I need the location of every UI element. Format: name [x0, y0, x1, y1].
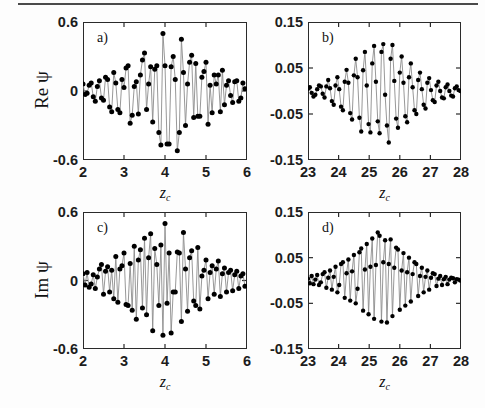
- panel-b-xlabel: zc: [379, 184, 390, 203]
- panel-d-ytick-label: -0.15: [270, 341, 303, 357]
- panel-b-xtick-label: 27: [422, 164, 438, 180]
- panel-a-ytick-label: -0.6: [53, 152, 78, 168]
- panel-b-ytick-label: 0.15: [275, 14, 303, 30]
- panel-c-ylabel-text: Im: [31, 277, 52, 298]
- panel-c-ytick-label: 0.6: [58, 204, 78, 220]
- panel-b-ytick-label: 0.05: [275, 60, 303, 76]
- panel-d-xtick-label: 27: [422, 353, 438, 369]
- panel-a-letter: a): [97, 30, 108, 46]
- panel-c-xlabel: zc: [160, 373, 171, 392]
- panel-a-ylabel-text: Re: [31, 88, 52, 109]
- panel-c-ytick-label: 0: [70, 273, 78, 289]
- plot-panel-a: a) Re ψ zc 0.60-0.623456: [83, 22, 247, 160]
- panel-d-xtick-label: 26: [392, 353, 408, 369]
- panel-d-xtick-label: 25: [361, 353, 377, 369]
- panel-b-xtick-label: 28: [453, 164, 469, 180]
- panel-d-ytick-label: 0.15: [275, 204, 303, 220]
- panel-d-xtick-label: 23: [300, 353, 316, 369]
- panel-a-xlabel-sub: c: [166, 192, 170, 203]
- panel-a-ytick-label: 0.6: [58, 14, 78, 30]
- panel-d-xtick-label: 24: [331, 353, 347, 369]
- panel-c-xtick-label: 3: [120, 353, 128, 369]
- panel-a-ylabel-psi: ψ: [31, 71, 52, 83]
- panel-d-ytick-label: -0.05: [270, 295, 303, 311]
- panel-b-xtick-label: 26: [392, 164, 408, 180]
- top-horizontal-rule: [18, 3, 478, 5]
- panel-b-xlabel-sub: c: [385, 192, 389, 203]
- panel-a-xtick-label: 2: [79, 164, 87, 180]
- panel-d-ytick-label: 0.05: [275, 250, 303, 266]
- panel-c-ylabel-psi: ψ: [31, 261, 52, 273]
- panel-c-ytick-label: -0.6: [53, 341, 78, 357]
- panel-c-ylabel: Im ψ: [31, 235, 53, 325]
- panel-a-ylabel: Re ψ: [31, 45, 53, 135]
- panel-a-xtick-label: 4: [161, 164, 169, 180]
- panel-b-xtick-label: 24: [331, 164, 347, 180]
- panel-b-xtick-label: 25: [361, 164, 377, 180]
- panel-a-xtick-label: 3: [120, 164, 128, 180]
- panel-a-ytick-label: 0: [70, 83, 78, 99]
- plot-panel-d: d) zc 0.150.05-0.05-0.15232425262728: [308, 212, 461, 349]
- panel-a-xtick-label: 6: [243, 164, 251, 180]
- panel-a-xtick-label: 5: [202, 164, 210, 180]
- plot-panel-c: c) Im ψ zc 0.60-0.623456: [83, 212, 247, 349]
- panel-b-ytick-label: -0.15: [270, 152, 303, 168]
- panel-c-xtick-label: 6: [243, 353, 251, 369]
- panel-c-xlabel-sub: c: [166, 381, 170, 392]
- panel-d-letter: d): [322, 220, 334, 236]
- panel-b-xtick-label: 23: [300, 164, 316, 180]
- panel-c-letter: c): [97, 220, 108, 236]
- panel-d-xtick-label: 28: [453, 353, 469, 369]
- panel-d-xlabel: zc: [379, 373, 390, 392]
- panel-c-xtick-label: 2: [79, 353, 87, 369]
- panel-d-xlabel-sub: c: [385, 381, 389, 392]
- figure-canvas: a) Re ψ zc 0.60-0.623456 b) zc 0.150.05-…: [0, 0, 485, 408]
- panel-b-ytick-label: -0.05: [270, 106, 303, 122]
- plot-panel-b: b) zc 0.150.05-0.05-0.15232425262728: [308, 22, 461, 160]
- panel-c-xtick-label: 4: [161, 353, 169, 369]
- panel-b-letter: b): [322, 30, 334, 46]
- panel-c-xtick-label: 5: [202, 353, 210, 369]
- panel-a-xlabel: zc: [160, 184, 171, 203]
